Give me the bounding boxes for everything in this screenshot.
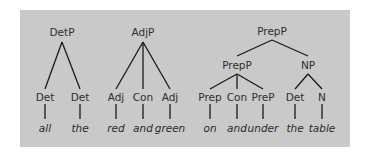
word-table: table [309, 123, 336, 134]
word-and: and [133, 123, 153, 134]
node-con: Con [227, 92, 247, 103]
node-det: Det [36, 92, 55, 103]
tree-branches [0, 0, 368, 161]
node-prepp: PrepP [222, 60, 252, 71]
word-on: on [203, 123, 216, 134]
node-adj: Adj [108, 92, 125, 103]
word-under: under [248, 123, 279, 134]
node-prep: Prep [198, 92, 221, 103]
word-red: red [107, 123, 124, 134]
word-and: and [227, 123, 247, 134]
node-np: NP [301, 60, 315, 71]
node-adj: Adj [162, 92, 179, 103]
node-det: Det [71, 92, 90, 103]
word-the: the [71, 123, 88, 134]
node-con: Con [133, 92, 153, 103]
node-adjp: AdjP [132, 27, 155, 38]
node-prep: PreP [251, 92, 274, 103]
word-all: all [39, 123, 51, 134]
node-detp: DetP [50, 27, 75, 38]
node-prepp-root: PrepP [257, 26, 287, 37]
node-n: N [318, 92, 326, 103]
word-the: the [286, 123, 303, 134]
node-det: Det [286, 92, 305, 103]
word-green: green [155, 123, 186, 134]
